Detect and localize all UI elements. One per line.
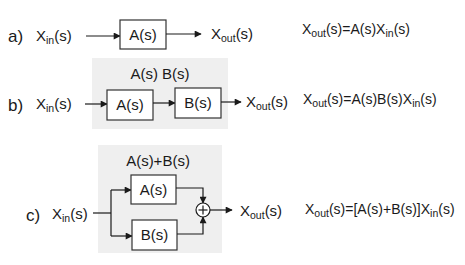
row-c-input-signal: Xin(s)	[52, 205, 88, 224]
block-diagram-canvas: a) Xin(s) A(s) Xout(s) Xout(s)=A(s)Xin(s…	[0, 0, 465, 265]
row-b-input-signal: Xin(s)	[36, 95, 72, 114]
row-c-block-a-label: A(s)	[140, 181, 168, 198]
row-b-block-a-label: A(s)	[116, 96, 144, 113]
row-b-block-b-label: B(s)	[184, 94, 212, 111]
row-c-block-b-label: B(s)	[141, 226, 169, 243]
row-a-block-a-label: A(s)	[129, 26, 157, 43]
row-b-panel-caption: A(s) B(s)	[130, 65, 189, 82]
row-a-single-block: a) Xin(s) A(s) Xout(s) Xout(s)=A(s)Xin(s…	[8, 20, 410, 49]
row-a-input-signal: Xin(s)	[36, 27, 72, 46]
row-b-label: b)	[8, 96, 23, 115]
row-a-output-signal: Xout(s)	[211, 25, 253, 44]
row-a-label: a)	[8, 27, 23, 46]
row-c-label: c)	[26, 206, 40, 225]
row-b-equation: Xout(s)=A(s)B(s)Xin(s)	[303, 91, 437, 109]
row-c-parallel-connection: A(s)+B(s) c) Xin(s) A(s) B(s) Xout(s) Xo…	[26, 145, 455, 253]
row-c-equation: Xout(s)=[A(s)+B(s)]Xin(s)	[305, 201, 455, 219]
row-b-output-signal: Xout(s)	[246, 93, 288, 112]
row-c-output-signal: Xout(s)	[240, 202, 282, 221]
row-b-series-connection: A(s) B(s) b) Xin(s) A(s) B(s) Xout(s) Xo…	[8, 58, 437, 129]
row-c-panel-caption: A(s)+B(s)	[126, 152, 190, 169]
row-a-equation: Xout(s)=A(s)Xin(s)	[302, 21, 410, 39]
